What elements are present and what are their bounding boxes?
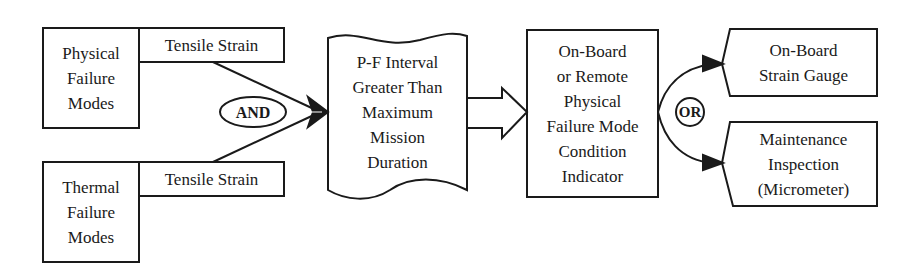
condition-indicator-label: On-Board or Remote Physical Failure Mode… xyxy=(522,30,663,197)
physical-failure-modes-label: Physical Failure Modes xyxy=(43,28,139,128)
tensile-strain-bottom-label: Tensile Strain xyxy=(139,162,284,196)
arrowhead-maintenance-icon xyxy=(703,155,723,170)
arrowhead-strain-gauge-icon xyxy=(703,56,723,71)
strain-gauge-label: On-Board Strain Gauge xyxy=(730,29,877,96)
maintenance-inspection-label: Maintenance Inspection (Micrometer) xyxy=(730,122,877,206)
pf-interval-label: P-F Interval Greater Than Maximum Missio… xyxy=(328,44,467,180)
block-arrow xyxy=(467,88,527,138)
or-gate-label: OR xyxy=(676,98,704,126)
thermal-failure-modes-label: Thermal Failure Modes xyxy=(43,162,139,262)
tensile-strain-top-label: Tensile Strain xyxy=(139,28,284,62)
and-gate-label: AND xyxy=(220,98,286,126)
